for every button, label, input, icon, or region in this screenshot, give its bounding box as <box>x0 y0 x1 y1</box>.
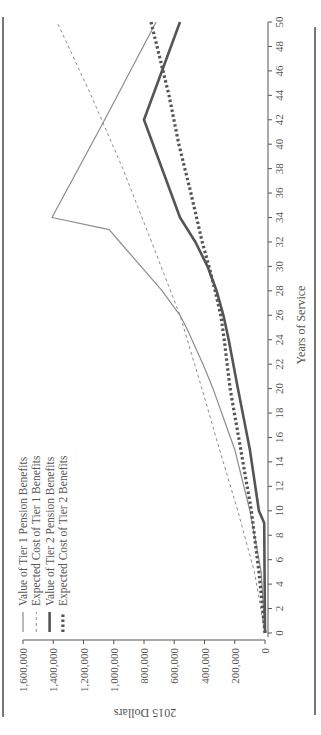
dollars-tick-label: 200,000 <box>229 648 241 684</box>
years-tick-label: 34 <box>273 212 285 224</box>
dollars-tick-label: 1,000,000 <box>108 648 120 693</box>
dollars-tick-label: 800,000 <box>138 648 150 684</box>
years-tick-label: 8 <box>273 532 285 538</box>
years-tick-label: 2 <box>273 606 285 612</box>
legend-label-3: Value of Tier 2 Pension Benefits <box>44 456 56 606</box>
years-tick-label: 42 <box>273 114 285 125</box>
dollars-tick-label: 1,600,000 <box>17 648 29 693</box>
dollars-tick-label: 1,400,000 <box>47 648 59 693</box>
years-tick-label: 16 <box>273 431 285 443</box>
dollars-tick-label: 400,000 <box>199 648 211 684</box>
years-tick-label: 36 <box>273 187 285 199</box>
dollars-tick-label: 0 <box>259 648 271 654</box>
years-tick-label: 38 <box>273 163 285 175</box>
years-tick-label: 6 <box>273 556 285 562</box>
years-tick-label: 20 <box>273 383 285 395</box>
years-tick-label: 4 <box>273 581 285 587</box>
years-tick-label: 40 <box>273 138 285 150</box>
years-tick-label: 50 <box>273 16 285 28</box>
years-tick-label: 46 <box>273 65 285 77</box>
years-tick-label: 30 <box>273 260 285 272</box>
years-tick-label: 28 <box>273 285 285 297</box>
years-tick-label: 26 <box>273 309 285 321</box>
years-tick-label: 0 <box>273 630 285 636</box>
y-axis-title: 2015 Dollars <box>114 706 177 720</box>
years-tick-label: 18 <box>273 407 285 419</box>
years-tick-label: 32 <box>273 236 285 247</box>
years-tick-label: 24 <box>273 334 285 346</box>
x-axis-title: Years of Service <box>294 286 308 365</box>
years-tick-label: 14 <box>273 456 285 468</box>
years-tick-label: 10 <box>273 505 285 517</box>
series-lines <box>52 22 265 633</box>
legend-label-4: Expected Cost of Tier 2 Benefits <box>57 455 70 606</box>
series-line-2 <box>57 22 265 633</box>
legend-label-1: Value of Tier 1 Pension Benefits <box>17 456 29 606</box>
series-line-3 <box>144 22 265 633</box>
dollars-tick-label: 600,000 <box>168 648 180 684</box>
dollars-tick-label: 1,200,000 <box>78 648 90 693</box>
series-line-1 <box>52 22 265 633</box>
years-tick-label: 22 <box>273 359 285 370</box>
years-tick-label: 44 <box>273 89 285 101</box>
dollars-axis: 0200,000400,000600,000800,0001,000,0001,… <box>17 640 271 692</box>
legend-label-2: Expected Cost of Tier 1 Benefits <box>30 455 43 606</box>
legend: Value of Tier 1 Pension BenefitsExpected… <box>17 455 70 632</box>
series-line-4 <box>151 22 265 633</box>
years-tick-label: 12 <box>273 481 285 492</box>
years-axis: 0246810121416182022242628303234363840424… <box>268 16 285 637</box>
years-tick-label: 48 <box>273 40 285 52</box>
pension-chart: 0200,000400,000600,000800,0001,000,0001,… <box>0 0 321 735</box>
